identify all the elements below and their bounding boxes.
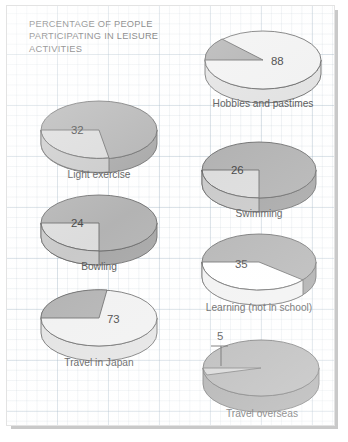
screenshot-scene: PERCENTAGE OF PEOPLE PARTICIPATING IN LE… (0, 0, 348, 442)
pie-chart-travel-overseas: 5 Travel overseas (197, 324, 327, 424)
pie-swimming-value: 26 (231, 164, 244, 176)
pie-travel-japan-slice-remainder (41, 290, 107, 318)
pie-bowling-value: 24 (71, 217, 84, 229)
pie-learning-caption: Learning (not in school) (197, 302, 321, 313)
pie-swimming-caption: Swimming (197, 208, 321, 219)
pie-hobbies-caption: Hobbies and pastimes (199, 98, 327, 109)
pie-bowling-caption: Bowling (35, 261, 163, 272)
pie-chart-light-exercise: 32 Light exercise (35, 86, 163, 182)
pie-chart-hobbies-and-pastimes: 88 Hobbies and pastimes (199, 14, 327, 110)
pie-chart-travel-in-japan: 73 Travel in Japan (35, 278, 163, 372)
pie-travel-japan-caption: Travel in Japan (35, 357, 163, 368)
page-title: PERCENTAGE OF PEOPLE PARTICIPATING IN LE… (29, 18, 199, 55)
graph-paper-page: PERCENTAGE OF PEOPLE PARTICIPATING IN LE… (6, 5, 335, 426)
pie-learning-value: 35 (235, 258, 248, 270)
pie-light-exercise-value: 32 (71, 124, 84, 136)
pie-light-exercise-caption: Light exercise (35, 169, 163, 180)
pie-chart-learning: 35 Learning (not in school) (197, 220, 321, 316)
pie-travel-japan-value: 73 (107, 313, 120, 325)
pie-travel-overseas-caption: Travel overseas (197, 408, 327, 419)
pie-hobbies-svg (199, 14, 327, 110)
pie-hobbies-value: 88 (271, 55, 284, 67)
pie-light-exercise-svg (35, 86, 163, 182)
page-title-line-3: ACTIVITIES (29, 43, 199, 55)
page-title-line-2: PARTICIPATING IN LEISURE (29, 30, 199, 42)
page-title-line-1: PERCENTAGE OF PEOPLE (29, 18, 199, 30)
pie-travel-overseas-value: 5 (217, 330, 223, 342)
pie-chart-bowling: 24 Bowling (35, 181, 163, 275)
pie-chart-swimming: 26 Swimming (197, 128, 321, 222)
